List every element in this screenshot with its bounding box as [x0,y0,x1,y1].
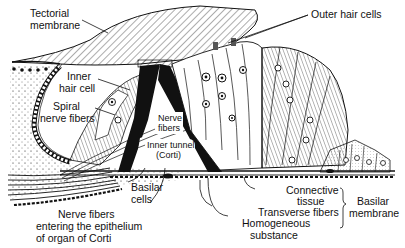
label-outer-hair-cells: Outer hair cells [311,8,382,20]
label-nerve-fibers-1: Nerve [158,113,182,123]
label-basilar-membrane-1: Basilar [357,195,390,207]
label-nerve-entering-1: Nerve fibers [58,208,115,220]
label-inner-hair-cell-1: Inner [67,70,91,82]
label-inner-hair-cell-2: hair cell [59,82,95,94]
label-homogeneous-2: substance [250,229,298,241]
label-basilar-cells-1: Basilar [131,181,164,193]
label-nerve-entering-3: of organ of Corti [36,232,111,244]
label-spiral-2: nerve fibers [40,112,95,124]
label-homogeneous-1: Homogeneous [242,217,310,229]
label-inner-tunnel-1: Inner tunnel [147,140,195,150]
label-inner-tunnel-2: (Corti) [156,150,181,160]
diagram-art: Tectorial membrane Outer hair cells Inne… [0,0,405,248]
label-tectorial-2: membrane [30,19,80,31]
organ-of-corti-diagram: Tectorial membrane Outer hair cells Inne… [0,0,405,248]
label-basilar-cells-2: cells [131,193,152,205]
label-basilar-membrane-2: membrane [349,207,399,219]
label-spiral-1: Spiral [53,100,80,112]
label-nerve-fibers-2: fibers [158,123,181,133]
label-tectorial-1: Tectorial [30,7,69,19]
label-nerve-entering-2: entering the epithelium [36,220,142,232]
